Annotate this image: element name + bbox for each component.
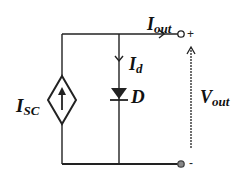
terminal-plus-icon: [178, 31, 184, 37]
vout-arrow-icon: [187, 47, 195, 148]
id-label: Id: [129, 55, 143, 73]
diode-label: D: [131, 87, 145, 106]
plus-sign: +: [187, 28, 194, 40]
iout-label: Iout: [147, 15, 171, 33]
circuit-diagram: Iout Id ISC D Vout + -: [0, 0, 243, 186]
current-source-icon: [48, 76, 76, 124]
minus-sign: -: [189, 157, 193, 169]
isc-label: ISC: [16, 96, 39, 115]
vout-label: Vout: [200, 88, 229, 106]
terminal-minus-icon: [178, 161, 184, 167]
diode-icon: [110, 88, 128, 100]
